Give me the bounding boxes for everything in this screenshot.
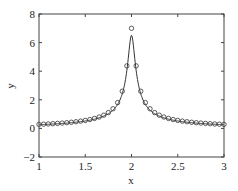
- x-tick-label: 1: [36, 160, 42, 172]
- x-tick-label: 1.5: [78, 160, 92, 172]
- series-line: [39, 35, 224, 124]
- x-axis-ticks: 11.522.53: [36, 14, 227, 172]
- x-tick-label: 2.5: [171, 160, 185, 172]
- line-chart: 11.522.53 −202468 x y: [0, 0, 238, 191]
- y-tick-label: 8: [30, 8, 36, 20]
- x-tick-label: 3: [221, 160, 227, 172]
- y-tick-label: 2: [30, 94, 36, 106]
- y-tick-label: 6: [30, 37, 36, 49]
- y-tick-label: 4: [30, 65, 36, 77]
- data-point-marker: [129, 26, 133, 30]
- plot-area: [37, 26, 226, 126]
- y-tick-label: −2: [23, 151, 35, 163]
- y-tick-label: 0: [30, 122, 36, 134]
- y-axis-label: y: [4, 83, 16, 89]
- x-axis-label: x: [128, 174, 134, 186]
- y-axis-ticks: −202468: [23, 8, 224, 163]
- x-tick-label: 2: [129, 160, 135, 172]
